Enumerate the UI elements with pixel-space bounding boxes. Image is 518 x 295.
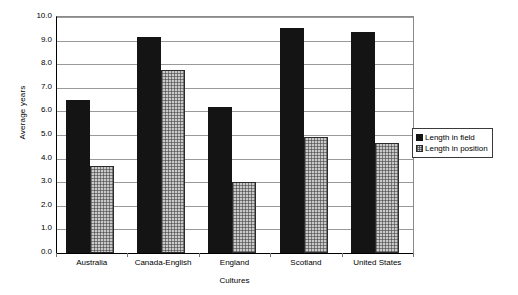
y-axis-tick-label: 5.0 [18, 130, 52, 138]
bar-group [342, 17, 413, 253]
bar [232, 182, 256, 253]
legend: Length in fieldLength in position [412, 128, 493, 158]
x-axis-tick-mark [56, 253, 57, 257]
bar [208, 107, 232, 253]
y-axis-tick-label: 9.0 [18, 36, 52, 44]
y-axis-tick-labels: 10.09.08.07.06.05.04.03.02.01.00.0 [18, 16, 52, 252]
plot-area [56, 16, 414, 254]
legend-item-label: Length in field [425, 133, 475, 142]
bar-chart: Average years 10.09.08.07.06.05.04.03.02… [0, 0, 518, 295]
x-axis-category-label: United States [342, 258, 413, 268]
x-axis-tick-mark [270, 253, 271, 257]
bar [66, 100, 90, 253]
legend-swatch-position-icon [416, 145, 423, 152]
y-axis-tick-label: 0.0 [18, 248, 52, 256]
bar-group [271, 17, 342, 253]
y-axis-tick-label: 1.0 [18, 224, 52, 232]
bars-layer [57, 17, 413, 253]
x-axis-tick-marks [56, 253, 413, 257]
x-axis-category-labels: AustraliaCanada-EnglishEnglandScotlandUn… [56, 258, 413, 268]
x-axis-tick-mark [342, 253, 343, 257]
y-axis-tick-label: 2.0 [18, 201, 52, 209]
y-axis-tick-label: 10.0 [18, 12, 52, 20]
bar [137, 37, 161, 253]
x-axis-tick-mark [413, 253, 414, 257]
legend-swatch-field-icon [416, 134, 423, 141]
x-axis-category-label: Canada-English [127, 258, 198, 268]
bar [304, 137, 328, 253]
bar-group [199, 17, 270, 253]
bar [375, 143, 399, 253]
bar [90, 166, 114, 253]
bar [351, 32, 375, 253]
bar-group [57, 17, 128, 253]
legend-item: Length in field [416, 132, 488, 143]
y-axis-tick-label: 6.0 [18, 106, 52, 114]
legend-item-label: Length in position [425, 144, 488, 153]
legend-item: Length in position [416, 143, 488, 154]
x-axis-title: Cultures [56, 276, 413, 285]
y-axis-tick-label: 4.0 [18, 154, 52, 162]
x-axis-tick-mark [127, 253, 128, 257]
x-axis-category-label: Australia [56, 258, 127, 268]
x-axis-category-label: England [199, 258, 270, 268]
bar [280, 28, 304, 253]
x-axis-category-label: Scotland [270, 258, 341, 268]
x-axis-tick-mark [199, 253, 200, 257]
bar-group [128, 17, 199, 253]
y-axis-tick-label: 3.0 [18, 177, 52, 185]
y-axis-tick-label: 7.0 [18, 83, 52, 91]
bar [161, 70, 185, 253]
y-axis-tick-label: 8.0 [18, 59, 52, 67]
